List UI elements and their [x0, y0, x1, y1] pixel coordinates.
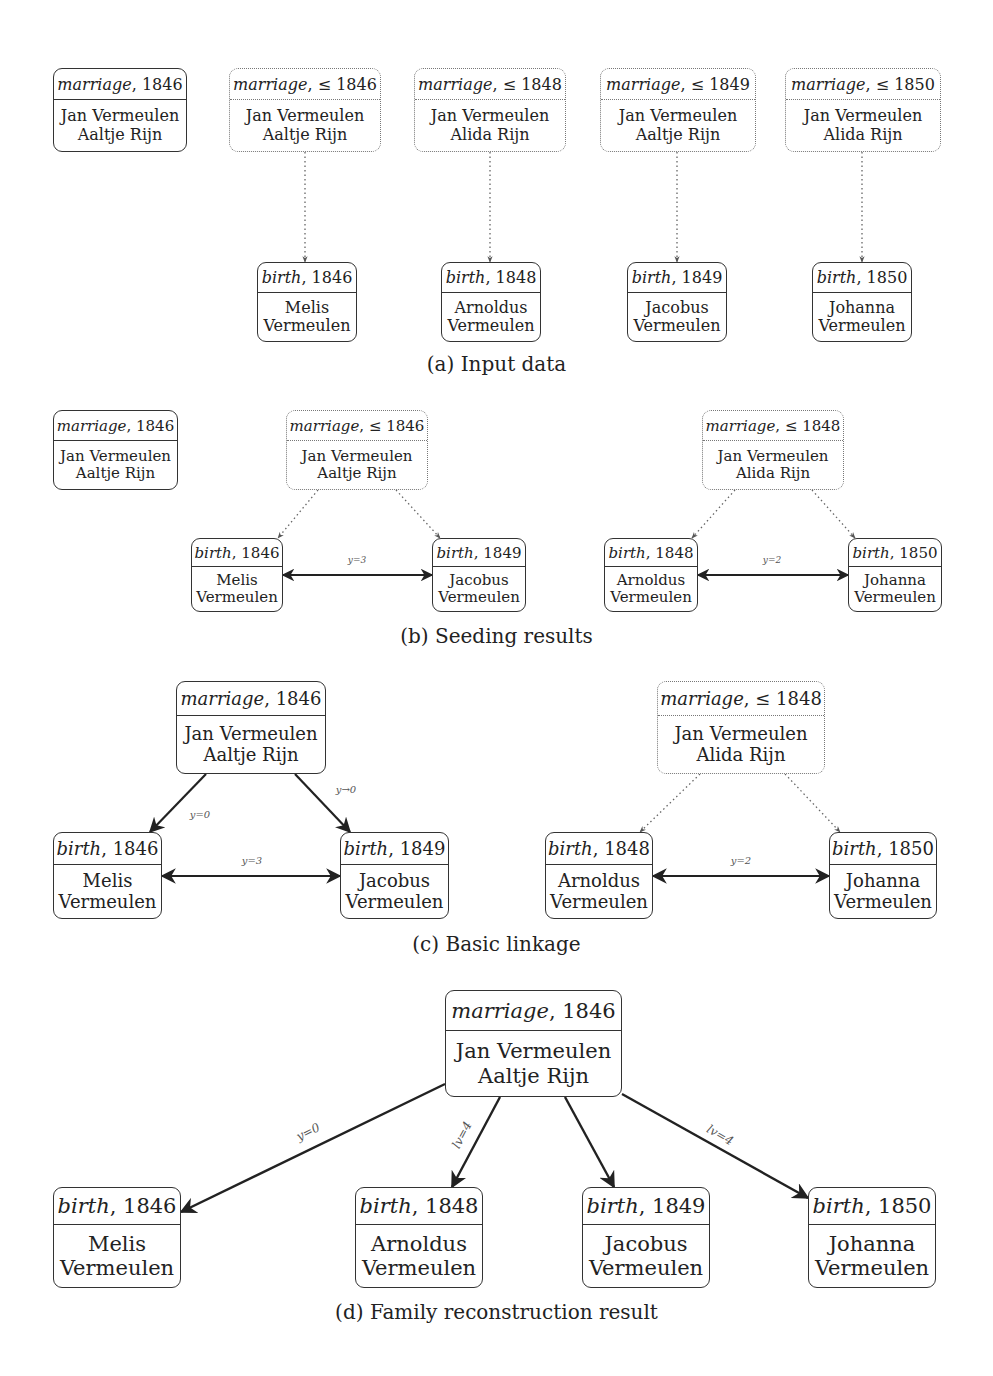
record-header: birth, 1850 [809, 1188, 935, 1225]
record-date: , 1846 [232, 544, 280, 562]
birth-record-node: birth, 1849JacobusVermeulen [432, 538, 526, 612]
person-name: Melis [88, 1232, 146, 1256]
record-header: birth, 1849 [583, 1188, 709, 1225]
record-persons: ArnoldusVermeulen [442, 293, 540, 341]
person-name: Aaltje Rijn [76, 465, 155, 482]
person-name: Aaltje Rijn [636, 126, 721, 144]
record-persons: MelisVermeulen [54, 1225, 180, 1287]
record-persons: JohannaVermeulen [849, 567, 941, 611]
record-header: birth, 1846 [192, 539, 282, 567]
record-type: birth [632, 268, 672, 287]
birth-record-node: birth, 1850JohannaVermeulen [808, 1187, 936, 1288]
birth-record-node: birth, 1848ArnoldusVermeulen [355, 1187, 483, 1288]
person-name: Jan Vermeulen [60, 448, 171, 465]
record-persons: JohannaVermeulen [830, 865, 936, 918]
record-persons: Jan VermeulenAlida Rijn [415, 100, 565, 151]
person-name: Jan Vermeulen [619, 107, 737, 125]
record-persons: JacobusVermeulen [583, 1225, 709, 1287]
edge-arrow [785, 774, 840, 832]
record-type: birth [817, 268, 857, 287]
record-persons: Jan VermeulenAaltje Rijn [54, 100, 186, 151]
record-type: birth [344, 838, 389, 859]
edge-arrow [640, 774, 700, 832]
marriage-record-node: marriage, ≤ 1848Jan VermeulenAlida Rijn [702, 410, 844, 490]
edge-layer [0, 0, 993, 1376]
record-persons: MelisVermeulen [54, 865, 161, 918]
record-persons: JohannaVermeulen [813, 293, 911, 341]
record-date: , 1846 [101, 838, 158, 859]
panel-caption-b: (b) Seeding results [0, 624, 993, 648]
edge-label: y→0 [336, 784, 356, 795]
edge-label: y=3 [348, 555, 366, 565]
record-date: , 1846 [132, 75, 183, 94]
record-header: marriage, ≤ 1846 [287, 411, 427, 441]
record-persons: Jan VermeulenAaltje Rijn [601, 100, 755, 151]
record-header: birth, 1849 [433, 539, 525, 567]
record-type: marriage [660, 688, 744, 709]
record-persons: JacobusVermeulen [433, 567, 525, 611]
person-name: Alida Rijn [823, 126, 902, 144]
record-type: marriage [57, 75, 131, 94]
person-name: Johanna [864, 572, 926, 589]
person-name: Jan Vermeulen [456, 1039, 611, 1063]
record-date: , 1849 [671, 268, 722, 287]
person-name: Vermeulen [834, 892, 932, 913]
record-persons: ArnoldusVermeulen [605, 567, 697, 611]
person-name: Vermeulen [815, 1256, 929, 1280]
record-header: marriage, 1846 [177, 682, 325, 716]
person-name: Vermeulen [60, 1256, 174, 1280]
record-date: , 1848 [485, 268, 536, 287]
edge-arrow [622, 1094, 808, 1198]
birth-record-node: birth, 1846MelisVermeulen [191, 538, 283, 612]
person-name: Vermeulen [438, 589, 520, 606]
birth-record-node: birth, 1846MelisVermeulen [53, 1187, 181, 1288]
record-header: marriage, 1846 [54, 411, 177, 441]
person-name: Jan Vermeulen [674, 724, 807, 745]
edge-arrow [565, 1097, 614, 1187]
person-name: Arnoldus [558, 871, 640, 892]
person-name: Johanna [829, 299, 895, 317]
panel-caption-d: (d) Family reconstruction result [0, 1300, 993, 1324]
record-date: , ≤ 1850 [865, 75, 934, 94]
person-name: Vermeulen [589, 1256, 703, 1280]
record-persons: ArnoldusVermeulen [546, 865, 652, 918]
person-name: Jacobus [604, 1232, 687, 1256]
person-name: Vermeulen [610, 589, 692, 606]
panel-caption-c: (c) Basic linkage [0, 932, 993, 956]
person-name: Jan Vermeulen [302, 448, 413, 465]
person-name: Jacobus [645, 299, 708, 317]
record-header: marriage, 1846 [446, 991, 621, 1031]
record-header: birth, 1850 [849, 539, 941, 567]
record-type: birth [57, 838, 102, 859]
record-type: marriage [57, 417, 127, 435]
birth-record-node: birth, 1848ArnoldusVermeulen [441, 262, 541, 342]
figure-canvas: marriage, 1846Jan VermeulenAaltje Rijnma… [0, 0, 993, 1376]
birth-record-node: birth, 1850JohannaVermeulen [812, 262, 912, 342]
record-type: marriage [451, 999, 549, 1023]
record-header: birth, 1848 [605, 539, 697, 567]
record-type: marriage [706, 417, 776, 435]
record-type: birth [609, 544, 646, 562]
record-date: , 1849 [388, 838, 445, 859]
person-name: Melis [216, 572, 258, 589]
person-name: Vermeulen [362, 1256, 476, 1280]
record-header: marriage, 1846 [54, 69, 186, 100]
record-type: birth [587, 1194, 639, 1218]
record-date: , 1846 [127, 417, 175, 435]
record-persons: Jan VermeulenAlida Rijn [703, 441, 843, 489]
person-name: Jan Vermeulen [246, 107, 364, 125]
person-name: Johanna [829, 1232, 916, 1256]
marriage-record-node: marriage, 1846Jan VermeulenAaltje Rijn [445, 990, 622, 1097]
edge-arrow [278, 490, 318, 538]
record-header: marriage, ≤ 1848 [703, 411, 843, 441]
record-type: marriage [791, 75, 865, 94]
record-header: birth, 1848 [442, 263, 540, 293]
birth-record-node: birth, 1850JohannaVermeulen [848, 538, 942, 612]
record-persons: JacobusVermeulen [628, 293, 726, 341]
record-persons: JacobusVermeulen [341, 865, 448, 918]
person-name: Arnoldus [617, 572, 685, 589]
person-name: Vermeulen [550, 892, 648, 913]
marriage-record-node: marriage, ≤ 1849Jan VermeulenAaltje Rijn [600, 68, 756, 152]
panel-caption-a: (a) Input data [0, 352, 993, 376]
edge-label: y=2 [763, 555, 781, 565]
